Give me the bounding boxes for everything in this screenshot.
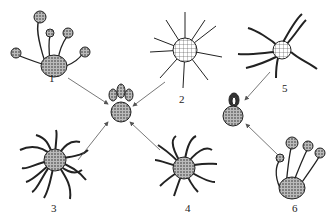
diagram-stage: 1 2 3 4 5 6 <box>0 0 332 221</box>
label-1: 1 <box>49 73 55 84</box>
label-2: 2 <box>179 94 185 105</box>
label-6: 6 <box>292 203 298 214</box>
label-4: 4 <box>185 203 191 214</box>
organism-2 <box>150 12 222 88</box>
spore-cluster-left <box>109 84 133 122</box>
organism-3 <box>20 130 88 199</box>
diagram-svg <box>0 0 332 221</box>
organism-5 <box>238 14 317 78</box>
organism-4 <box>155 136 217 196</box>
label-3: 3 <box>51 203 57 214</box>
organism-1 <box>11 11 90 77</box>
label-5: 5 <box>282 83 288 94</box>
spore-cluster-right <box>223 93 243 126</box>
organism-6 <box>276 137 325 199</box>
